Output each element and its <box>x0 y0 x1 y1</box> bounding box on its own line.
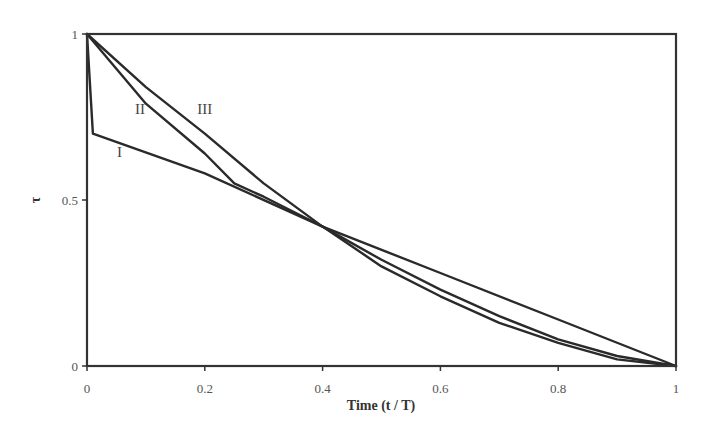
curve-label-ii: II <box>135 101 145 117</box>
y-axis-title: τ <box>28 196 43 203</box>
x-tick-label: 0.6 <box>432 381 449 396</box>
curve-label-i: I <box>117 144 122 160</box>
chart: 00.20.40.60.8100.51 IIIIII Time (t / T) … <box>0 0 711 444</box>
x-axis-title: Time (t / T) <box>347 398 416 414</box>
y-tick-label: 0.5 <box>62 193 78 208</box>
x-tick-label: 0.2 <box>197 381 213 396</box>
curve-label-iii: III <box>197 101 212 117</box>
x-tick-label: 0.8 <box>550 381 566 396</box>
y-tick-label: 0 <box>72 359 79 374</box>
y-tick-label: 1 <box>72 27 79 42</box>
x-tick-label: 1 <box>673 381 680 396</box>
x-tick-label: 0 <box>84 381 91 396</box>
chart-background <box>0 0 711 444</box>
x-tick-label: 0.4 <box>314 381 331 396</box>
